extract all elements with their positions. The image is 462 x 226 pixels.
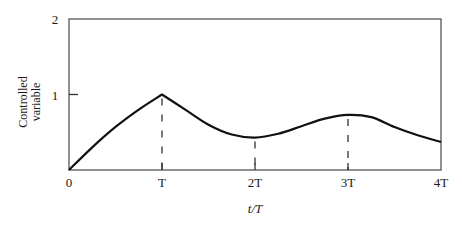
y-axis-label-line-2: variable xyxy=(30,76,43,127)
x-tick-label: 4T xyxy=(434,175,449,190)
x-tick-label: 2T xyxy=(248,175,263,190)
dashed-markers xyxy=(162,95,348,171)
tick-labels: 0T2T3T4T12 xyxy=(52,12,449,190)
chart-canvas: 0T2T3T4T12 t/T xyxy=(0,0,462,226)
x-axis-label: t/T xyxy=(248,201,263,216)
y-axis-label: Controlled variable xyxy=(10,62,50,142)
y-tick-label: 2 xyxy=(52,12,59,27)
x-tick-label: 3T xyxy=(341,175,356,190)
x-tick-label: 0 xyxy=(66,175,73,190)
x-tick-label: T xyxy=(158,175,166,190)
y-tick-label: 1 xyxy=(52,88,59,103)
